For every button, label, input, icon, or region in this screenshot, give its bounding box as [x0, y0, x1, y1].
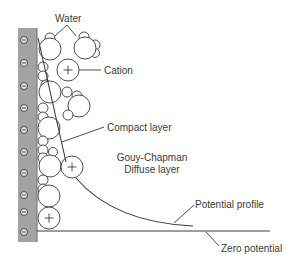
minus-icon — [21, 127, 28, 134]
cation-icon — [38, 207, 60, 229]
cation-label: Cation — [104, 65, 133, 76]
minus-icon — [21, 60, 28, 67]
minus-icon — [21, 170, 28, 177]
minus-icon — [21, 192, 28, 199]
water-label: Water — [55, 13, 81, 24]
minus-icon — [21, 37, 28, 44]
zero-potential-label: Zero potential — [221, 243, 282, 254]
cation-icon — [57, 59, 79, 81]
minus-icon — [21, 209, 28, 216]
minus-icon — [21, 149, 28, 156]
minus-icon — [21, 105, 28, 112]
compact-layer-label: Compact layer — [107, 122, 171, 133]
minus-icon — [21, 83, 28, 90]
water-molecules — [38, 32, 100, 207]
minus-icon — [21, 229, 28, 236]
potential-profile-label: Potential profile — [195, 199, 264, 210]
diffuse-layer-label: Diffuse layer — [112, 164, 192, 175]
gouy-chapman-label: Gouy-Chapman — [112, 152, 192, 163]
double-layer-diagram — [0, 0, 298, 269]
cation-icon — [61, 156, 83, 178]
leader-lines — [55, 25, 219, 246]
